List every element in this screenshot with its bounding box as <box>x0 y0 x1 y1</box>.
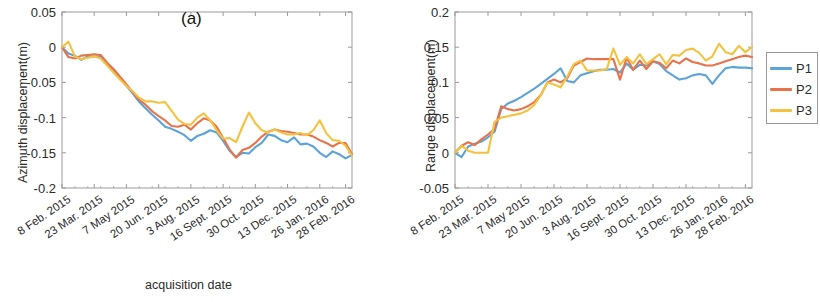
legend-item-p2[interactable]: P2 <box>767 79 817 100</box>
panel-a-plot <box>0 0 410 302</box>
legend-swatch-p1 <box>770 67 792 70</box>
panel-b-plot <box>410 0 820 302</box>
panel-b: (b) acquisition date 0.20.150.10.050-0.0… <box>410 0 820 302</box>
legend-label-p2: P2 <box>796 83 812 96</box>
legend-swatch-p2 <box>770 88 792 91</box>
y-tick-label: 0.05 <box>20 5 56 20</box>
y-tick-label: -0.05 <box>20 75 56 90</box>
legend-label-p3: P3 <box>796 104 812 117</box>
series-line-p3 <box>62 42 352 156</box>
y-tick-label: -0.15 <box>20 145 56 160</box>
figure-root: Azimuth displacement(m) (a) acquisition … <box>0 0 820 302</box>
y-tick-label: -0.1 <box>20 110 56 125</box>
y-tick-label: -0.2 <box>20 181 56 196</box>
plot-box <box>455 12 752 188</box>
panel-b-y-axis-title: Range displacement(m) <box>424 39 438 172</box>
plot-box <box>62 12 352 188</box>
legend: P1 P2 P3 <box>766 52 818 124</box>
y-tick-label: -0.05 <box>412 181 449 196</box>
y-tick-label: 0 <box>20 40 56 55</box>
legend-label-p1: P1 <box>796 62 812 75</box>
legend-swatch-p3 <box>770 109 792 112</box>
panel-a-x-axis-title: acquisition date <box>145 278 232 292</box>
panel-a: Azimuth displacement(m) (a) acquisition … <box>0 0 410 302</box>
panel-a-label: (a) <box>181 9 202 29</box>
legend-item-p1[interactable]: P1 <box>767 58 817 79</box>
legend-item-p3[interactable]: P3 <box>767 100 817 121</box>
y-tick-label: 0.2 <box>412 5 449 20</box>
